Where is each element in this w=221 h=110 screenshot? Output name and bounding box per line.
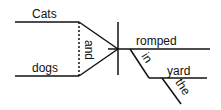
word-cats: Cats <box>32 7 57 21</box>
word-dogs: dogs <box>32 61 58 75</box>
word-and: and <box>82 40 96 60</box>
word-romped: romped <box>136 34 177 48</box>
word-the: the <box>172 76 193 98</box>
word-in: in <box>138 50 155 65</box>
sentence-diagram: Cats dogs and romped in yard the <box>0 0 221 110</box>
word-yard: yard <box>167 64 190 78</box>
